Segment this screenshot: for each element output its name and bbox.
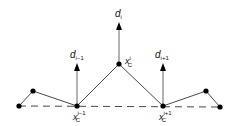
node-xc-i	[116, 61, 121, 66]
arrowhead-icon	[74, 63, 80, 71]
arrowhead-icon	[160, 63, 166, 71]
arrowhead-icon	[116, 22, 122, 30]
node-left-end	[16, 103, 21, 108]
vector-d-i	[116, 22, 122, 64]
node-left-peak	[30, 88, 35, 93]
node-xc-i-minus-1	[74, 103, 79, 108]
vector-d-i-minus-1	[74, 63, 80, 106]
dashed-baseline	[19, 106, 220, 107]
node-right-peak	[203, 88, 208, 93]
node-xc-i-plus-1	[160, 103, 165, 108]
node-right-end	[217, 104, 222, 109]
label-xc-i: xiC	[124, 55, 133, 68]
label-d-i-minus-1: di−1	[70, 49, 84, 61]
control-polyline	[19, 64, 220, 107]
label-d-i: di	[115, 8, 122, 20]
label-d-i-plus-1: di+1	[155, 49, 169, 61]
label-xc-i-minus-1: xi−1C	[72, 110, 86, 123]
label-xc-i-plus-1: xi+1C	[158, 110, 172, 123]
polyline-diagram: di−1 di di+1 xiC xi−1C xi+1C	[0, 0, 234, 126]
vector-d-i-plus-1	[160, 63, 166, 106]
